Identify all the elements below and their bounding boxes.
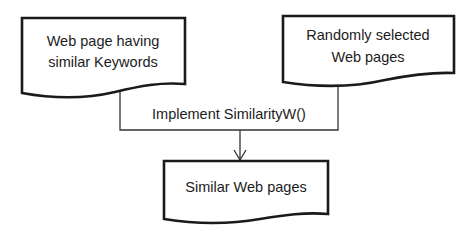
document-label-line-1: Randomly selected (306, 27, 429, 43)
process-label: Implement SimilarityW() (152, 106, 306, 122)
process-node: Implement SimilarityW() (120, 84, 338, 130)
flowchart-diagram: Implement SimilarityW() Web page having … (0, 0, 469, 239)
document-label-line-2: similar Keywords (48, 54, 158, 70)
document-node-keywords: Web page having similar Keywords (22, 18, 185, 97)
document-node-random: Randomly selected Web pages (283, 16, 454, 86)
document-label-line-2: Web pages (331, 49, 404, 65)
document-node-output: Similar Web pages (164, 161, 328, 223)
arrow-connector (234, 130, 246, 160)
document-label-line-1: Web page having (47, 33, 160, 49)
document-label-line-1: Similar Web pages (185, 179, 306, 195)
